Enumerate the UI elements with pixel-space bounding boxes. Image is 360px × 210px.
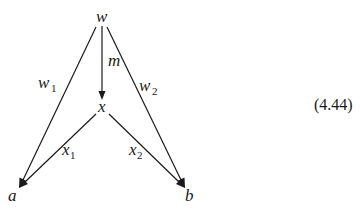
edge-label-x1: x 1	[61, 140, 76, 161]
node-w: w	[96, 7, 108, 26]
svg-text:1: 1	[70, 149, 76, 161]
svg-text:w: w	[38, 73, 50, 92]
node-x: x	[97, 97, 106, 116]
edge-x-to-b	[109, 114, 185, 188]
svg-text:w: w	[139, 76, 151, 95]
svg-text:2: 2	[152, 85, 158, 97]
node-b: b	[185, 186, 194, 205]
edge-label-w1: w 1	[38, 73, 57, 94]
commutative-diagram: w x a b m w 1 w 2 x 1 x 2 (4.44)	[0, 0, 360, 210]
svg-text:2: 2	[137, 149, 143, 161]
svg-text:x: x	[128, 140, 137, 159]
edge-w-to-a	[19, 27, 96, 188]
node-a: a	[8, 186, 17, 205]
svg-text:x: x	[61, 140, 70, 159]
edge-x-to-a	[19, 114, 96, 188]
edge-label-x2: x 2	[128, 140, 143, 161]
edge-w-to-x	[99, 26, 106, 100]
edge-label-w2: w 2	[139, 76, 158, 97]
svg-text:1: 1	[51, 82, 57, 94]
edge-label-m: m	[108, 51, 120, 70]
equation-number: (4.44)	[314, 96, 353, 114]
